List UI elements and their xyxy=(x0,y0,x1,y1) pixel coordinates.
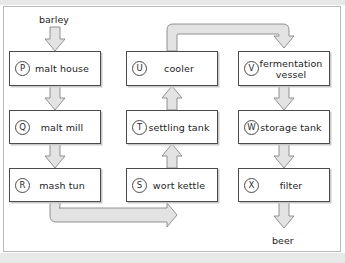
arrow-fermentation-to-storage-tank xyxy=(274,86,294,110)
node-tag-v: V xyxy=(244,61,259,76)
arrow-malt-mill-to-mash-tun xyxy=(45,144,65,168)
diagram-root: .ar { fill: #e3e3e3; stroke: #7a7a7a; st… xyxy=(0,0,345,263)
node-label-fermentation-line1: fermentation xyxy=(260,58,323,69)
node-storage-tank[interactable]: W storage tank xyxy=(238,110,330,144)
node-wort-kettle[interactable]: S wort kettle xyxy=(126,168,218,202)
node-tag-r: R xyxy=(15,178,30,193)
arrow-settling-tank-to-cooler xyxy=(162,86,182,110)
node-malt-house[interactable]: P malt house xyxy=(9,51,101,86)
node-label-settling-tank: settling tank xyxy=(147,122,217,133)
node-tag-u: U xyxy=(132,61,147,76)
arrow-barley-to-malt-house xyxy=(45,27,65,51)
node-label-fermentation-line2: vessel xyxy=(276,69,306,80)
node-cooler[interactable]: U cooler xyxy=(126,51,218,86)
input-label-barley: barley xyxy=(39,14,69,25)
arrow-cooler-to-fermentation-vessel xyxy=(167,24,294,51)
node-label-malt-mill: malt mill xyxy=(30,122,100,133)
node-label-wort-kettle: wort kettle xyxy=(147,180,217,191)
node-tag-x: X xyxy=(244,178,259,193)
arrow-wort-kettle-to-settling-tank xyxy=(162,144,182,168)
node-label-fermentation-vessel: fermentation vessel xyxy=(259,58,329,80)
node-label-storage-tank: storage tank xyxy=(259,122,329,133)
node-label-cooler: cooler xyxy=(147,63,217,74)
node-settling-tank[interactable]: T settling tank xyxy=(126,110,218,144)
node-label-mash-tun: mash tun xyxy=(30,180,100,191)
node-tag-q: Q xyxy=(15,120,30,135)
arrow-mash-tun-to-wort-kettle xyxy=(50,202,177,227)
node-label-malt-house: malt house xyxy=(30,63,100,74)
output-label-beer: beer xyxy=(272,235,294,246)
node-label-filter: filter xyxy=(259,180,329,191)
node-tag-p: P xyxy=(15,61,30,76)
node-mash-tun[interactable]: R mash tun xyxy=(9,168,101,202)
arrow-filter-to-beer xyxy=(274,202,294,228)
node-fermentation-vessel[interactable]: V fermentation vessel xyxy=(238,51,330,86)
arrow-storage-tank-to-filter xyxy=(274,144,294,168)
node-tag-t: T xyxy=(132,120,147,135)
node-tag-w: W xyxy=(244,120,259,135)
node-malt-mill[interactable]: Q malt mill xyxy=(9,110,101,144)
arrow-malt-house-to-malt-mill xyxy=(45,86,65,110)
node-filter[interactable]: X filter xyxy=(238,168,330,202)
node-tag-s: S xyxy=(132,178,147,193)
